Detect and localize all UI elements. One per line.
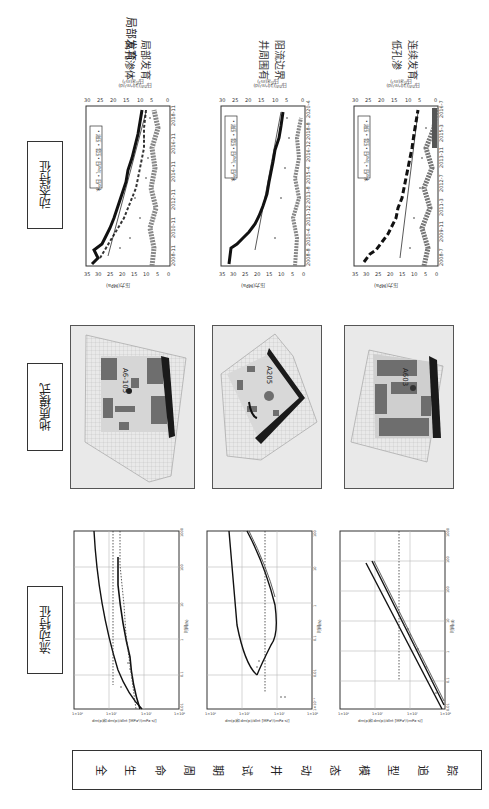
svg-text:高孔渗体: 高孔渗体 [124, 40, 136, 80]
geology-model-2-svg: A205 [213, 326, 321, 488]
svg-text:15: 15 [131, 271, 137, 277]
svg-text:20: 20 [387, 271, 393, 277]
svg-text:20: 20 [254, 271, 260, 277]
svg-text:30: 30 [84, 97, 90, 103]
svg-text:A6-105: A6-105 [121, 368, 129, 393]
svg-text:5: 5 [291, 271, 294, 277]
svg-text:5: 5 [285, 97, 288, 103]
svg-text:• 油压 • 套压 • 日产气 • 日产水: • 油压 • 套压 • 日产气 • 日产水 [95, 130, 102, 192]
svg-text:阻流边界: 阻流边界 [274, 40, 286, 80]
svg-text:10: 10 [137, 97, 143, 103]
svg-text:1×10³: 1×10³ [205, 712, 217, 716]
svg-text:1×10⁰: 1×10⁰ [307, 712, 319, 716]
svg-text:10: 10 [313, 567, 317, 571]
svg-text:2016-11: 2016-11 [170, 133, 176, 154]
svg-text:井周围有: 井周围有 [258, 40, 270, 80]
svg-text:30: 30 [219, 97, 225, 103]
svg-text:2008-7: 2008-7 [438, 248, 444, 266]
svg-text:压力(MPa): 压力(MPa) [241, 282, 265, 289]
section-label-dynamic-text: 动态特征 [37, 161, 54, 209]
svg-text:30: 30 [95, 271, 101, 277]
svg-text:25: 25 [375, 271, 381, 277]
svg-text:压力(MPa): 压力(MPa) [106, 282, 130, 289]
svg-text:1×10¹: 1×10¹ [274, 712, 286, 716]
caption-char: 周 [181, 765, 197, 776]
svg-text:2008-8: 2008-8 [305, 248, 311, 266]
dynamic-chart-1-svg: 302520 151050 • 油压 • 套压 • 日产气 • 日产水 3530… [80, 78, 180, 293]
svg-text:0.01: 0.01 [180, 703, 184, 711]
svg-text:1: 1 [313, 605, 317, 607]
geology-model-3: A603 [344, 325, 454, 489]
svg-text:10: 10 [278, 271, 284, 277]
flow-chart-1-svg: 0.01 0.1 1 10 100 1000 时间(h) 1×10³1×10² … [70, 525, 190, 725]
svg-text:100: 100 [446, 586, 450, 593]
svg-text:2010-11: 2010-11 [170, 217, 176, 238]
caption-char: 试 [240, 765, 256, 776]
svg-text:2013-11: 2013-11 [438, 147, 444, 168]
caption-char: 动 [298, 765, 314, 776]
caption-char: 型 [386, 765, 402, 776]
svg-text:0.01: 0.01 [313, 669, 317, 677]
svg-text:2008-11: 2008-11 [170, 245, 176, 266]
svg-text:1×10²: 1×10² [372, 712, 384, 716]
svg-text:15: 15 [258, 97, 264, 103]
svg-text:1000: 1000 [446, 528, 450, 537]
svg-text:100: 100 [313, 530, 317, 537]
svg-text:25: 25 [242, 271, 248, 277]
svg-text:1×10³: 1×10³ [338, 712, 350, 716]
svg-text:35: 35 [219, 271, 225, 277]
svg-text:100: 100 [180, 564, 184, 571]
section-label-flow: 流动特征 [27, 586, 63, 674]
svg-text:10: 10 [143, 271, 149, 277]
caption-char: 态 [327, 765, 343, 776]
svg-text:• 油压 • 套压 • 日产气 • 日产水: • 油压 • 套压 • 日产气 • 日产水 [363, 120, 370, 182]
svg-text:20: 20 [119, 271, 125, 277]
svg-text:1000: 1000 [180, 528, 184, 537]
dynamic-chart-3: 302520 151050 • 油压 • 套压 • 日产气 • 日产水 3530… [348, 78, 448, 293]
svg-text:低孔渗: 低孔渗 [391, 40, 403, 70]
flow-chart-2-svg: 1×10⁻³ 0.01 0.1 1 10 100 时间(h) 1×10³1×10… [205, 525, 325, 725]
dynamic-chart-2-svg: 302520 151050 • 油压 • 套压 • 日产气 • 日产水 3530… [215, 78, 315, 293]
svg-text:2016-7: 2016-7 [438, 100, 444, 118]
caption-char: 生 [123, 765, 139, 776]
svg-text:0: 0 [301, 97, 304, 103]
geology-model-2: A205 [212, 325, 322, 489]
svg-text:30: 30 [363, 271, 369, 277]
svg-text:1×10¹: 1×10¹ [141, 712, 153, 716]
svg-text:0.1: 0.1 [180, 671, 184, 677]
flow-chart-1: 0.01 0.1 1 10 100 1000 时间(h) 1×10³1×10² … [70, 525, 190, 725]
svg-text:A205: A205 [265, 366, 273, 384]
svg-text:日产水(m³): 日产水(m³) [390, 78, 412, 85]
svg-text:25: 25 [97, 97, 103, 103]
dynamic-chart-3-svg: 302520 151050 • 油压 • 套压 • 日产气 • 日产水 3530… [348, 78, 448, 293]
svg-text:20: 20 [378, 97, 384, 103]
caption-char: 追 [415, 765, 431, 776]
svg-text:时间(d): 时间(d) [449, 619, 455, 633]
svg-text:10: 10 [405, 97, 411, 103]
svg-text:20: 20 [245, 97, 251, 103]
svg-text:2009-11: 2009-11 [438, 221, 444, 242]
svg-text:15: 15 [266, 271, 272, 277]
svg-text:1×10⁰: 1×10⁰ [440, 712, 452, 716]
svg-text:25: 25 [232, 97, 238, 103]
svg-text:15: 15 [391, 97, 397, 103]
flow-chart-3: 0.01 0.1 1 10 100 100 1000 时间(d) 1×10³1×… [338, 525, 458, 725]
svg-text:日产水(m³): 日产水(m³) [257, 78, 279, 85]
svg-text:1×10³: 1×10³ [72, 712, 84, 716]
svg-text:2020-4: 2020-4 [305, 100, 311, 118]
svg-text:5: 5 [424, 271, 427, 277]
caption-char: 期 [210, 765, 226, 776]
section-label-flow-text: 流动特征 [37, 606, 54, 654]
svg-text:2018-11: 2018-11 [170, 105, 176, 126]
svg-text:2016-12: 2016-12 [305, 141, 311, 162]
svg-text:2011-3: 2011-3 [438, 198, 444, 216]
svg-text:35: 35 [84, 271, 90, 277]
svg-text:1×10⁻³: 1×10⁻³ [313, 698, 317, 711]
svg-text:时间(h): 时间(h) [183, 619, 189, 633]
caption-char: 踪 [444, 765, 460, 776]
svg-text:0.01: 0.01 [446, 703, 450, 711]
svg-text:局部发育: 局部发育 [140, 40, 152, 80]
svg-text:• 油压 • 套压 • 日产气 • 日产水: • 油压 • 套压 • 日产气 • 日产水 [230, 120, 237, 182]
geology-model-1: A6-105 [70, 325, 195, 489]
svg-text:1: 1 [446, 651, 450, 653]
